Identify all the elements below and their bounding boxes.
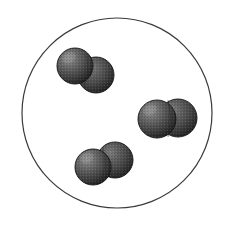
particle-diagram: Particulate representation of a diatomic… (0, 0, 235, 233)
diagram-canvas (0, 0, 235, 233)
